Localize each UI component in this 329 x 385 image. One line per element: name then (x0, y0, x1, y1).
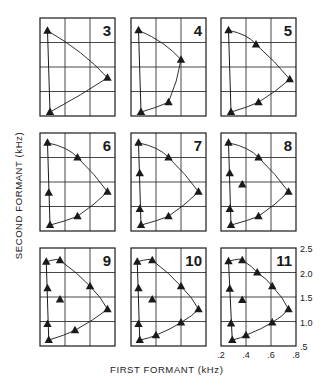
panel-8: 8 (221, 133, 296, 231)
y-tick-label: 2.0 (300, 269, 313, 279)
panel-6: 6 (40, 133, 115, 231)
data-point-triangle (71, 326, 79, 334)
panel-10: 10 (131, 248, 206, 346)
data-point-triangle (284, 305, 292, 313)
panel-number: 11 (276, 252, 292, 269)
panel-5: 5 (221, 18, 296, 116)
data-point-triangle (254, 212, 262, 220)
data-point-triangle (164, 98, 172, 106)
data-point-triangle (164, 212, 172, 220)
data-point-triangle (134, 26, 142, 34)
panel-number: 9 (103, 252, 111, 269)
data-point-triangle (134, 284, 142, 292)
formant-chart-grid: 34567891011.51.01.52.02.5.2.4.6.8 (0, 0, 329, 385)
data-point-triangle (148, 295, 156, 303)
panel-number: 5 (284, 22, 292, 39)
data-point-triangle (43, 26, 51, 34)
data-point-triangle (136, 204, 144, 212)
data-point-triangle (226, 204, 234, 212)
data-point-triangle (43, 138, 51, 146)
data-point-triangle (238, 180, 246, 188)
data-point-triangle (224, 26, 232, 34)
x-tick-label: .8 (292, 350, 300, 360)
y-tick-label: .5 (300, 342, 308, 352)
data-point-triangle (254, 98, 262, 106)
panel-number: 3 (103, 22, 111, 39)
panel-9: 9 (40, 248, 115, 346)
data-point-triangle (224, 138, 232, 146)
data-point-triangle (45, 188, 53, 196)
panel-4: 4 (131, 18, 206, 116)
panel-number: 8 (284, 137, 292, 154)
panel-number: 7 (194, 137, 202, 154)
y-tick-label: 1.5 (300, 293, 313, 303)
data-point-triangle (43, 319, 51, 327)
data-point-triangle (43, 284, 51, 292)
x-tick-label: .6 (267, 350, 275, 360)
data-point-triangle (226, 284, 234, 292)
data-point-triangle (73, 212, 81, 220)
data-point-triangle (227, 319, 235, 327)
data-point-triangle (103, 305, 111, 313)
data-point-triangle (134, 138, 142, 146)
data-point-triangle (134, 319, 142, 327)
panel-number: 10 (185, 252, 202, 269)
y-tick-label: 1.0 (300, 318, 313, 328)
panel-number: 4 (194, 22, 203, 39)
data-point-triangle (136, 169, 144, 177)
panel-11: 11 (221, 248, 296, 346)
data-point-triangle (226, 169, 234, 177)
y-tick-label: 2.5 (300, 244, 313, 254)
x-tick-label: .2 (217, 350, 225, 360)
panel-number: 6 (103, 137, 111, 154)
data-point-triangle (46, 108, 54, 116)
data-point-triangle (194, 305, 202, 313)
panel-3: 3 (40, 18, 115, 116)
data-point-triangle (56, 295, 64, 303)
x-tick-label: .4 (242, 350, 250, 360)
panel-7: 7 (131, 133, 206, 231)
